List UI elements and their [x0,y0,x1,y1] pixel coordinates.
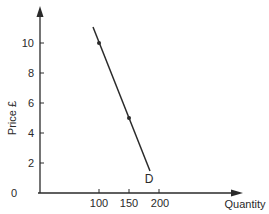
demand-curve-label: D [145,172,154,186]
y-axis-label: Price £ [6,101,18,135]
y-tick-label: 4 [28,127,34,139]
y-tick-label: 6 [28,97,34,109]
demand-chart: 10 8 6 4 2 0 Price £ 100 150 200 Quantit… [0,0,269,214]
x-tick-label: 100 [90,197,108,209]
y-tick-label: 2 [28,157,34,169]
y-tick-label: 10 [22,37,34,49]
data-point-marker [97,41,101,45]
chart-svg: 10 8 6 4 2 0 Price £ 100 150 200 Quantit… [0,0,269,214]
y-axis: 10 8 6 4 2 0 Price £ [6,6,44,199]
demand-curve: D [93,27,154,186]
x-axis-label: Quantity [225,198,266,210]
y-tick-label: 8 [28,67,34,79]
x-axis: 100 150 200 Quantity [38,189,266,210]
data-point-marker [127,116,131,120]
y-axis-arrow-icon [37,6,44,17]
x-axis-arrow-icon [231,190,243,197]
x-tick-label: 200 [151,197,169,209]
y-tick-label: 0 [11,187,17,199]
x-tick-label: 150 [120,197,138,209]
